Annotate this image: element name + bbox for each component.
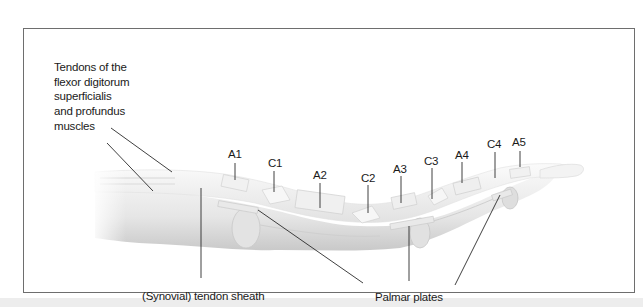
label-pulley-a4: A4 (455, 149, 469, 161)
finger-illustration (0, 0, 643, 307)
label-pulley-c1: C1 (268, 157, 282, 169)
label-pulley-c4: C4 (487, 138, 501, 150)
label-pulley-a5: A5 (512, 136, 526, 148)
label-palmar-plates: Palmar plates (375, 291, 443, 303)
label-pulley-a2: A2 (313, 169, 327, 181)
label-synovial-sheath: (Synovial) tendon sheath (142, 290, 264, 302)
label-pulley-a3: A3 (393, 163, 407, 175)
label-pulley-a1: A1 (228, 148, 242, 160)
label-pulley-c3: C3 (424, 155, 438, 167)
label-pulley-c2: C2 (361, 172, 375, 184)
label-tendons: Tendons of the flexor digitorum superfic… (54, 60, 129, 134)
